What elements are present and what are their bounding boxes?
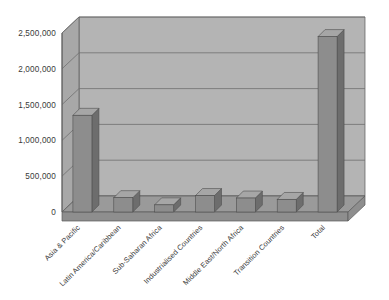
y-tick-label: 2,000,000 <box>18 65 56 74</box>
y-tick-label: 1,500,000 <box>18 101 56 110</box>
bar-column <box>318 30 344 212</box>
y-tick-label: 1,000,000 <box>18 136 56 145</box>
bar-column <box>114 191 140 212</box>
y-tick-label: 500,000 <box>25 172 56 181</box>
bar-chart-figure: 0500,0001,000,0001,500,0002,000,0002,500… <box>0 0 389 300</box>
bar-column <box>196 189 222 212</box>
y-tick-label: 2,500,000 <box>18 29 56 38</box>
y-tick-label: 0 <box>51 208 56 217</box>
bar-column <box>73 108 99 212</box>
chart-canvas: 0500,0001,000,0001,500,0002,000,0002,500… <box>0 0 389 300</box>
bar-column <box>236 191 262 212</box>
bar-column <box>277 192 303 212</box>
